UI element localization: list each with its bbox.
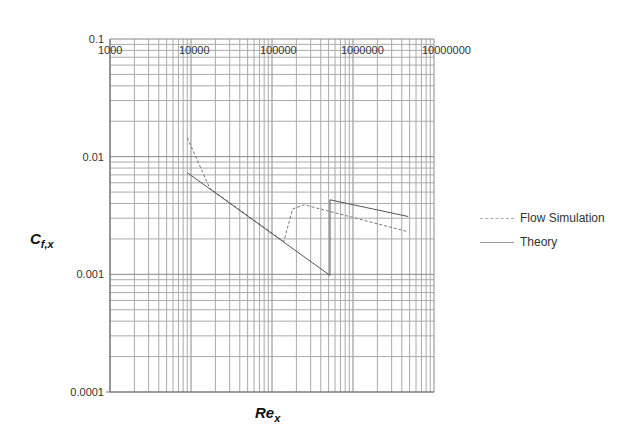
x-tick-label: 10000 bbox=[179, 44, 210, 56]
dashed-line-swatch-icon bbox=[480, 218, 514, 219]
y-tick-label: 0.0001 bbox=[70, 386, 104, 398]
series-theory bbox=[187, 173, 408, 276]
x-axis-title: Rex bbox=[255, 404, 281, 424]
x-tick-label: 100000 bbox=[260, 44, 297, 56]
x-tick-label: 1000 bbox=[98, 44, 122, 56]
y-tick-label: 0.1 bbox=[89, 33, 104, 45]
x-tick-label: 10000000 bbox=[422, 44, 471, 56]
legend-item-flow-simulation: Flow Simulation bbox=[480, 206, 605, 230]
y-axis-title: Cf,x bbox=[30, 230, 55, 250]
solid-line-swatch-icon bbox=[480, 242, 514, 243]
series-lines bbox=[187, 138, 408, 276]
grid bbox=[106, 39, 434, 392]
y-tick-label: 0.01 bbox=[83, 151, 104, 163]
legend-label: Flow Simulation bbox=[520, 211, 605, 225]
x-tick-label: 1000000 bbox=[341, 44, 384, 56]
legend: Flow Simulation Theory bbox=[480, 206, 605, 254]
series-flow-simulation bbox=[187, 138, 408, 242]
y-axis-ticks: 0.10.010.0010.0001 bbox=[70, 33, 104, 398]
legend-item-theory: Theory bbox=[480, 230, 605, 254]
legend-label: Theory bbox=[520, 235, 557, 249]
y-tick-label: 0.001 bbox=[76, 268, 104, 280]
